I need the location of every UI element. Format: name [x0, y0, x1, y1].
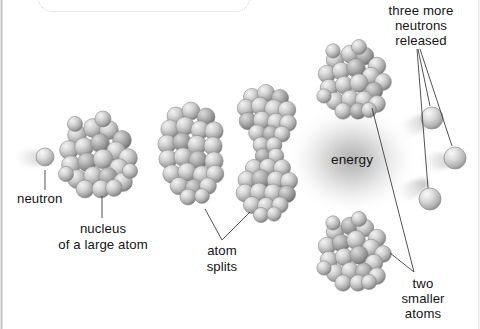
label-atom-splits-line2: splits — [192, 259, 252, 275]
label-two-smaller-line2: smaller — [388, 291, 458, 307]
label-released-line1: three more — [373, 3, 469, 19]
fragment-atom-upper — [317, 39, 392, 119]
deformed-nucleus — [158, 102, 224, 205]
label-atom-splits-line1: atom — [192, 243, 252, 259]
incoming-neutron — [10, 148, 54, 166]
leader-neutron-a — [418, 49, 430, 106]
fission-diagram: neutron nucleus of a large atom atom spl… — [0, 0, 480, 329]
label-released-line2: neutrons — [373, 18, 469, 34]
label-neutron: neutron — [17, 191, 62, 207]
label-nucleus-line2: of a large atom — [43, 237, 163, 253]
released-neutron-2 — [417, 147, 466, 169]
label-released-line3: released — [373, 33, 469, 49]
leader-two-atoms-lower — [390, 253, 414, 272]
leader-neutron-b — [420, 49, 452, 146]
fragment-atom-lower — [317, 211, 392, 291]
label-energy: energy — [331, 152, 373, 168]
label-two-smaller-line1: two — [388, 276, 458, 292]
label-two-smaller-line3: atoms — [388, 306, 458, 322]
label-nucleus-line1: nucleus — [58, 221, 148, 237]
leader-atom-splits — [205, 209, 250, 240]
target-nucleus — [58, 111, 137, 198]
